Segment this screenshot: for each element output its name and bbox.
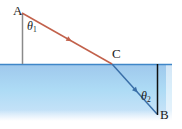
theta1-subscript: 1 xyxy=(33,25,37,34)
incident-ray-arrowhead xyxy=(66,36,73,43)
label-point-c: C xyxy=(112,47,121,60)
label-point-a: A xyxy=(13,4,22,17)
theta2-subscript: 2 xyxy=(147,95,151,104)
label-theta1: θ1 xyxy=(27,20,37,32)
water-bottom-fade xyxy=(0,110,172,121)
label-theta2: θ2 xyxy=(141,90,151,102)
label-point-b: B xyxy=(160,108,169,121)
refraction-diagram: A C B θ1 θ2 xyxy=(0,0,182,129)
